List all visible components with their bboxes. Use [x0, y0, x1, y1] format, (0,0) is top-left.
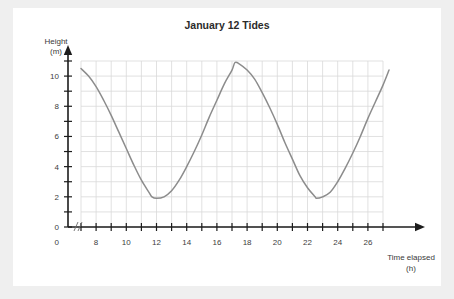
- y-tick-label: 10: [50, 72, 59, 81]
- tide-height-curve: [81, 62, 389, 198]
- x-tick-label: 20: [273, 238, 282, 247]
- y-tick-label: 4: [55, 163, 60, 172]
- x-tick-label: 26: [363, 238, 372, 247]
- grid-vertical-lines: [81, 61, 383, 227]
- x-tick-label: 8: [94, 238, 99, 247]
- y-axis-tick-labels: 0246810: [50, 72, 59, 232]
- x-tick-label: 14: [182, 238, 191, 247]
- x-tick-label: 12: [152, 238, 161, 247]
- x-tick-label: 22: [303, 238, 312, 247]
- x-axis-tick-labels: 8101214161820222426: [94, 238, 373, 247]
- x-axis-label-line1: Time elapsed: [387, 253, 435, 262]
- page-root: January 12 Tides Height (m) Time elapsed…: [0, 0, 454, 299]
- x-tick-label: 10: [122, 238, 131, 247]
- page-title: January 12 Tides: [184, 19, 269, 31]
- axis-lines: [64, 45, 425, 231]
- y-axis-label-line1: Height: [44, 37, 68, 46]
- x-axis-label-line2: (h): [406, 264, 416, 273]
- y-tick-label: 0: [55, 223, 60, 232]
- x-tick-label: 16: [212, 238, 221, 247]
- y-tick-label: 2: [55, 193, 60, 202]
- x-tick-label: 24: [333, 238, 342, 247]
- chart-card: January 12 Tides Height (m) Time elapsed…: [13, 8, 441, 286]
- y-tick-label: 8: [55, 102, 60, 111]
- tide-chart: January 12 Tides Height (m) Time elapsed…: [13, 8, 441, 286]
- y-tick-label: 6: [55, 132, 60, 141]
- x-origin-label: 0: [55, 238, 60, 247]
- x-tick-label: 18: [243, 238, 252, 247]
- y-axis-label-line2: (m): [50, 47, 62, 56]
